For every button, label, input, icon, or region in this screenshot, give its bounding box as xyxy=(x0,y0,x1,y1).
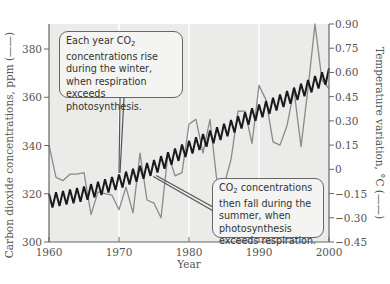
x-axis-title: Year xyxy=(176,258,201,270)
right-tick-label: 0 xyxy=(335,163,342,175)
callout-text: Each year CO xyxy=(66,35,131,46)
right-tick-label: −0.15 xyxy=(335,188,367,200)
left-tick-label: 380 xyxy=(22,43,42,55)
right-axis-title: Temperature variation, °C (——) xyxy=(374,47,386,219)
right-tick-label: 0.45 xyxy=(335,91,358,103)
x-tick-label: 2000 xyxy=(316,246,343,258)
right-tick-label: 0.60 xyxy=(335,66,358,78)
callout-subscript: 2 xyxy=(131,40,135,48)
left-tick-label: 320 xyxy=(22,188,42,200)
callout-text: CO xyxy=(219,182,233,193)
left-axis-ticks: 300320340360380 xyxy=(22,43,49,248)
right-tick-label: 0.75 xyxy=(335,42,358,54)
left-axis-title: Carbon dioxide concentrations, ppm (——) xyxy=(3,32,15,258)
right-tick-label: 0.30 xyxy=(335,115,358,127)
x-tick-label: 1960 xyxy=(36,246,63,258)
left-tick-label: 360 xyxy=(22,91,42,103)
right-tick-label: 0.15 xyxy=(335,139,358,151)
summer-fall-callout: CO2 concentrations then fall during the … xyxy=(212,178,324,238)
winter-rise-callout: Each year CO2 concentrations rise during… xyxy=(59,31,183,98)
left-tick-label: 340 xyxy=(22,140,42,152)
right-axis-ticks: 0.900.750.600.450.300.150−0.15−0.30−0.45 xyxy=(329,18,367,248)
right-tick-label: −0.30 xyxy=(335,212,367,224)
right-tick-label: 0.90 xyxy=(335,18,358,30)
x-tick-label: 1980 xyxy=(176,246,203,258)
x-tick-label: 1970 xyxy=(106,246,133,258)
